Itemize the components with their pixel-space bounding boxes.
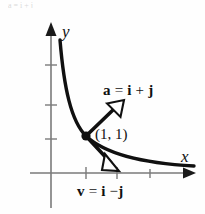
acceleration-operator: + xyxy=(136,82,145,98)
y-axis-arrowhead xyxy=(46,22,57,36)
velocity-operator: − xyxy=(110,183,119,199)
acceleration-rhs2: j xyxy=(148,82,153,98)
velocity-rhs2: j xyxy=(118,183,123,199)
velocity-lhs: v xyxy=(77,183,85,199)
acceleration-vector-label: a = i + j xyxy=(103,83,153,98)
point-label: (1, 1) xyxy=(95,127,128,142)
velocity-vector-label: v = i −j xyxy=(77,184,123,199)
hyperbola-curve xyxy=(60,40,194,166)
velocity-vector-arrowhead xyxy=(102,154,119,171)
diagram-canvas xyxy=(0,0,205,214)
x-axis-arrowhead xyxy=(183,168,196,179)
point-marker xyxy=(81,131,90,140)
y-axis-label: y xyxy=(62,23,70,40)
vector-diagram-figure: a = i + j y x (1, 1) xyxy=(0,0,205,214)
acceleration-lhs: a xyxy=(103,82,111,98)
x-axis-label: x xyxy=(181,148,189,165)
